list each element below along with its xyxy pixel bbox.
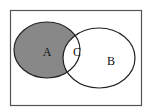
label-a: A	[43, 45, 52, 59]
venn-diagram: A C B	[0, 0, 146, 112]
label-c: C	[73, 45, 81, 59]
label-b: B	[107, 54, 115, 68]
